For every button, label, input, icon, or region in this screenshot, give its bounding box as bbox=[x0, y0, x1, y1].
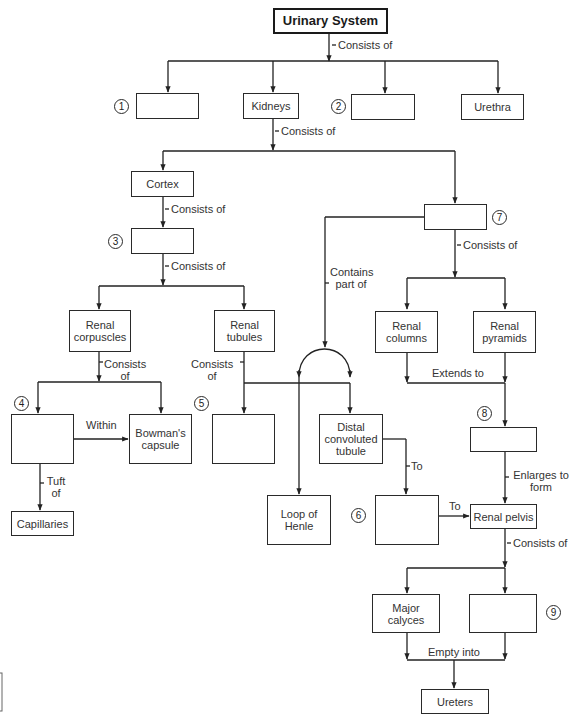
node-urethra: Urethra bbox=[461, 94, 524, 120]
node-ureters: Ureters bbox=[421, 689, 489, 714]
node-cortex: Cortex bbox=[131, 171, 194, 197]
marker-1: 1 bbox=[114, 99, 129, 114]
node-capillaries: Capillaries bbox=[11, 511, 74, 536]
marker-4: 4 bbox=[14, 396, 29, 411]
node-blank-7[interactable] bbox=[424, 204, 487, 230]
edge-label-tuft-of: Tuft of bbox=[42, 475, 70, 499]
node-major-calyces: Major calyces bbox=[372, 594, 440, 633]
urinary-system-concept-map: Urinary System Consists of 1 Kidneys 2 U… bbox=[0, 0, 574, 723]
edge-label-pelvis-consists-of: Consists of bbox=[513, 537, 567, 549]
edge-label-to-2: To bbox=[449, 500, 461, 512]
edge-label-empty-into: Empty into bbox=[428, 646, 480, 658]
node-renal-columns: Renal columns bbox=[375, 311, 438, 353]
node-blank-2[interactable] bbox=[351, 94, 415, 120]
edge-label-enlarges-to-form: Enlarges to form bbox=[508, 469, 574, 493]
node-blank-4[interactable] bbox=[11, 414, 74, 464]
node-blank-5[interactable] bbox=[212, 414, 275, 464]
node-kidneys: Kidneys bbox=[243, 93, 299, 119]
edge-label-contains-part-of: Contains part of bbox=[330, 266, 372, 290]
marker-6: 6 bbox=[351, 508, 366, 523]
partial-box-fragment bbox=[0, 673, 2, 711]
node-renal-pelvis: Renal pelvis bbox=[470, 504, 537, 529]
edge-label-system-consists-of: Consists of bbox=[338, 39, 392, 51]
node-distal-convoluted-tubule: Distal convoluted tubule bbox=[319, 414, 383, 464]
node-blank-1[interactable] bbox=[136, 93, 199, 119]
marker-2: 2 bbox=[331, 99, 346, 114]
marker-7: 7 bbox=[492, 210, 507, 225]
node-renal-corpuscles: Renal corpuscles bbox=[69, 310, 131, 352]
edge-label-within: Within bbox=[86, 419, 117, 431]
node-urinary-system: Urinary System bbox=[273, 8, 388, 34]
edge-label-tubules-consists-of: Consists of bbox=[191, 358, 233, 382]
node-bowmans-capsule: Bowman's capsule bbox=[129, 414, 192, 464]
edge-label-corpuscles-consists-of: Consists of bbox=[104, 358, 146, 382]
node-blank-3[interactable] bbox=[131, 228, 194, 254]
node-blank-9[interactable] bbox=[469, 594, 537, 633]
edge-label-extends-to: Extends to bbox=[432, 367, 484, 379]
marker-3: 3 bbox=[108, 234, 123, 249]
node-blank-6[interactable] bbox=[375, 495, 439, 545]
marker-8: 8 bbox=[477, 406, 492, 421]
marker-5: 5 bbox=[194, 396, 209, 411]
node-blank-8[interactable] bbox=[470, 427, 537, 452]
node-renal-tubules: Renal tubules bbox=[214, 310, 275, 352]
node-renal-pyramids: Renal pyramids bbox=[473, 311, 536, 353]
edge-label-blank3-consists-of: Consists of bbox=[171, 260, 225, 272]
edge-label-to-1: To bbox=[411, 460, 423, 472]
node-loop-of-henle: Loop of Henle bbox=[267, 495, 331, 545]
marker-9: 9 bbox=[546, 605, 561, 620]
edge-label-kidneys-consists-of: Consists of bbox=[281, 125, 335, 137]
edge-label-blank7-consists-of: Consists of bbox=[463, 239, 517, 251]
edge-label-cortex-consists-of: Consists of bbox=[171, 203, 225, 215]
